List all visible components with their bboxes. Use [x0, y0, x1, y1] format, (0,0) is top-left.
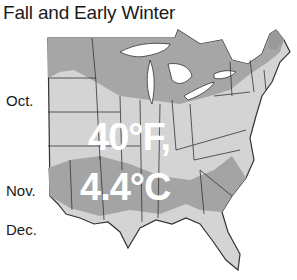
band-label-nov: Nov. — [6, 182, 36, 199]
band-label-dec: Dec. — [6, 221, 37, 238]
overlay-fahrenheit: 40°F, — [88, 118, 170, 156]
band-label-oct: Oct. — [6, 92, 34, 109]
overlay-celsius: 4.4°C — [80, 168, 170, 206]
